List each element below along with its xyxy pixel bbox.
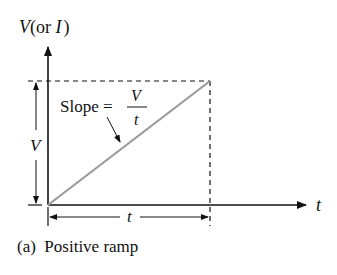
ramp-diagram: V t Slope = V t V(or I) t (a) Positive r… bbox=[0, 0, 337, 275]
figure-caption: (a) Positive ramp bbox=[17, 237, 138, 256]
duration-label: t bbox=[127, 207, 133, 226]
slope-prefix: Slope = bbox=[60, 97, 113, 116]
x-axis-label: t bbox=[316, 195, 322, 215]
amplitude-label: V bbox=[30, 136, 43, 155]
slope-numerator: V bbox=[131, 87, 143, 104]
slope-denominator: t bbox=[134, 111, 139, 128]
slope-pointer-arrow bbox=[107, 117, 120, 142]
y-axis-label: V(or I) bbox=[19, 17, 70, 38]
